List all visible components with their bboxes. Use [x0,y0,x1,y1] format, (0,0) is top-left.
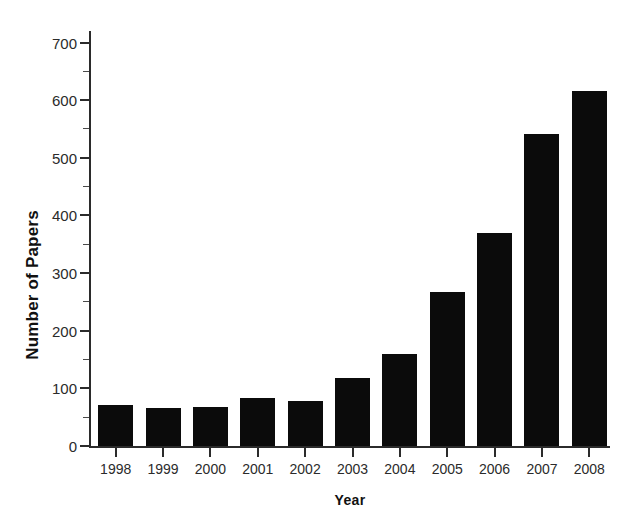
x-tick-label: 1998 [100,461,131,477]
x-tick [209,448,211,457]
y-tick-major [80,387,89,389]
y-tick-minor [83,186,89,187]
x-tick-label: 2006 [479,461,510,477]
y-axis-line [89,31,91,448]
x-tick [304,448,306,457]
bar [335,378,370,446]
y-tick-label: 400 [52,207,77,224]
y-tick-minor [83,417,89,418]
x-axis-title: Year [90,492,610,508]
x-tick [162,448,164,457]
bar [382,354,417,446]
x-tick-label: 2001 [242,461,273,477]
y-tick-major [80,99,89,101]
x-tick [257,448,259,457]
y-tick-minor [83,301,89,302]
y-tick-major [80,330,89,332]
y-tick-major [80,157,89,159]
x-tick-label: 2004 [384,461,415,477]
bar [477,233,512,446]
y-axis-title: Number of Papers [23,135,43,435]
x-tick-label: 1999 [147,461,178,477]
x-tick-label: 2003 [337,461,368,477]
y-tick-major [80,214,89,216]
y-tick-label: 0 [69,438,77,455]
x-axis-line [89,446,610,448]
x-tick-label: 2008 [574,461,605,477]
x-tick [115,448,117,457]
y-tick-label: 200 [52,322,77,339]
x-tick [541,448,543,457]
x-tick-label: 2002 [290,461,321,477]
bar [98,405,133,447]
bar [240,398,275,446]
x-tick [588,448,590,457]
y-tick-label: 100 [52,380,77,397]
y-tick-minor [83,359,89,360]
x-tick [446,448,448,457]
x-tick-label: 2007 [526,461,557,477]
y-tick-major [80,445,89,447]
x-tick-label: 2005 [432,461,463,477]
x-tick [494,448,496,457]
y-tick-major [80,272,89,274]
bar [193,407,228,446]
y-tick-major [80,42,89,44]
y-tick-minor [83,244,89,245]
bar [146,408,181,446]
x-tick-label: 2000 [195,461,226,477]
x-tick [352,448,354,457]
y-tick-label: 600 [52,92,77,109]
bar [572,91,607,446]
plot-area: 0100200300400500600700 19981999200020012… [89,31,610,448]
y-tick-minor [83,128,89,129]
bar [288,401,323,446]
bar [524,134,559,446]
y-tick-minor [83,71,89,72]
bar-chart-figure: Number of Papers 0100200300400500600700 … [0,0,621,523]
y-tick-label: 500 [52,149,77,166]
bar [430,292,465,446]
y-tick-label: 700 [52,34,77,51]
y-tick-label: 300 [52,265,77,282]
x-tick [399,448,401,457]
